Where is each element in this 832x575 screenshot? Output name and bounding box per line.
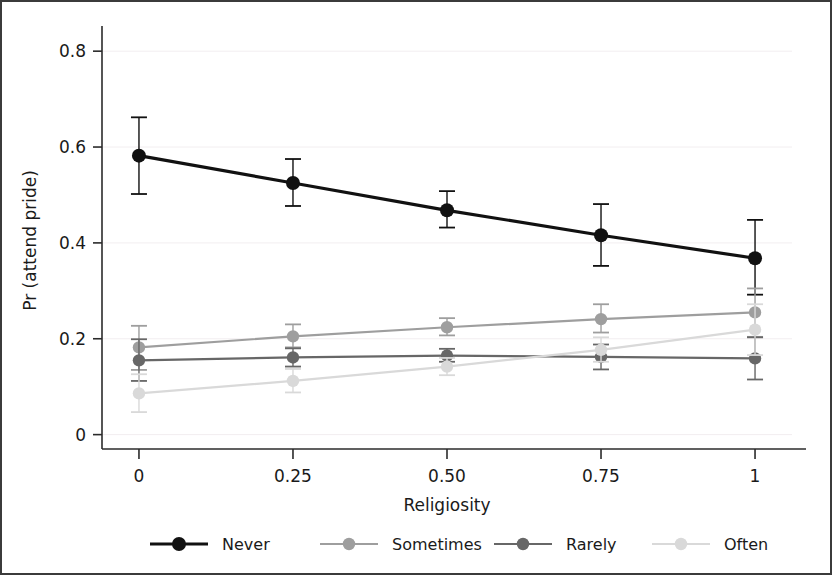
y-tick-label: 0.8 xyxy=(59,41,86,61)
legend-label: Often xyxy=(724,535,768,554)
series-never xyxy=(131,117,763,294)
data-point-marker xyxy=(748,251,762,265)
legend-marker xyxy=(517,538,529,550)
legend-item-often[interactable]: Often xyxy=(652,535,768,554)
legend-item-never[interactable]: Never xyxy=(150,535,270,554)
data-point-marker xyxy=(440,203,454,217)
data-point-marker xyxy=(287,330,299,342)
x-axis-title: Religiosity xyxy=(403,495,490,515)
data-point-marker xyxy=(441,321,453,333)
y-axis-title: Pr (attend pride) xyxy=(20,170,40,311)
legend-item-rarely[interactable]: Rarely xyxy=(494,535,617,554)
y-tick-label: 0 xyxy=(75,425,86,445)
data-point-marker xyxy=(133,354,145,366)
legend-label: Sometimes xyxy=(392,535,482,554)
chart-legend: NeverSometimesRarelyOften xyxy=(150,535,768,554)
legend-label: Never xyxy=(222,535,270,554)
data-point-marker xyxy=(132,149,146,163)
data-point-marker xyxy=(594,228,608,242)
data-point-marker xyxy=(287,351,299,363)
y-tick-label: 0.4 xyxy=(59,233,86,253)
chart-figure: 00.20.40.60.800.250.500.751 ReligiosityP… xyxy=(0,0,832,575)
axes xyxy=(102,26,806,449)
data-point-marker xyxy=(133,387,145,399)
x-tick-label: 0.75 xyxy=(582,466,620,486)
data-point-marker xyxy=(286,176,300,190)
x-tick-label: 0.25 xyxy=(274,466,312,486)
grid-lines xyxy=(102,51,792,434)
data-point-marker xyxy=(595,313,607,325)
data-point-marker xyxy=(287,375,299,387)
x-tick-label: 1 xyxy=(750,466,761,486)
chart-plot-area: 00.20.40.60.800.250.500.751 ReligiosityP… xyxy=(2,2,832,575)
y-tick-label: 0.2 xyxy=(59,329,86,349)
data-point-marker xyxy=(595,344,607,356)
legend-item-sometimes[interactable]: Sometimes xyxy=(320,535,482,554)
data-series xyxy=(131,117,763,412)
legend-label: Rarely xyxy=(566,535,617,554)
x-tick-label: 0 xyxy=(134,466,145,486)
axis-tick-labels: 00.20.40.60.800.250.500.751 xyxy=(59,41,760,486)
axis-titles: ReligiosityPr (attend pride) xyxy=(20,170,491,515)
y-tick-label: 0.6 xyxy=(59,137,86,157)
legend-marker xyxy=(172,537,186,551)
legend-marker xyxy=(675,538,687,550)
data-point-marker xyxy=(441,360,453,372)
data-point-marker xyxy=(749,323,761,335)
axis-ticks xyxy=(93,51,755,459)
x-tick-label: 0.50 xyxy=(428,466,466,486)
legend-marker xyxy=(343,538,355,550)
